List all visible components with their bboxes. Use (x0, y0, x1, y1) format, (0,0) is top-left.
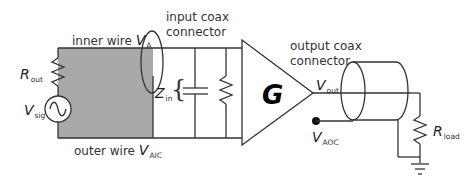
circuit-schematic (0, 0, 476, 184)
input-capacitor (183, 48, 208, 138)
output-connector-label-1: output coax (290, 40, 362, 52)
r-out-label: Rout (20, 67, 43, 84)
ground-icon (411, 164, 429, 174)
z-in-brace: { (171, 75, 186, 103)
outer-wire-label: outer wire VAIC (74, 143, 162, 160)
output-coax-connector (341, 62, 408, 120)
r-load-resistor (410, 93, 426, 163)
input-resistor (220, 48, 232, 138)
v-aoc-label: VAOC (312, 130, 339, 147)
gain-label: G (262, 80, 283, 110)
r-load-label: Rload (433, 124, 460, 141)
inner-wire-label: inner wire VA (72, 33, 151, 50)
input-connector-label-1: input coax (166, 11, 229, 23)
shield-region (58, 48, 153, 138)
output-connector-label-2: connector (290, 55, 350, 67)
z-in-label: Zin (155, 86, 172, 103)
v-out-label: Vout (316, 78, 339, 95)
v-sig-label: Vsig (24, 103, 45, 120)
input-connector-label-2: connector (166, 26, 226, 38)
